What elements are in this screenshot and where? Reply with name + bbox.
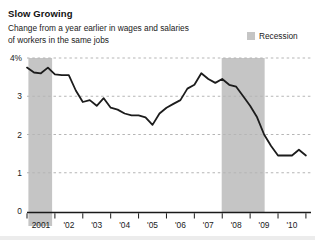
y-axis-label: 3 <box>17 91 22 101</box>
screen-bottom-edge <box>0 236 315 240</box>
y-axis-label: 4% <box>10 53 23 63</box>
recession-band <box>28 58 52 226</box>
x-axis-label: '03 <box>91 220 102 230</box>
x-axis-label: '04 <box>119 220 130 230</box>
x-axis-label: 2001 <box>32 220 51 230</box>
x-axis-label: '08 <box>231 220 242 230</box>
x-axis-label: '05 <box>147 220 158 230</box>
x-axis-label: '09 <box>259 220 270 230</box>
wage-growth-line-chart: 2001'02'03'04'05'06'07'08'09'104%3210 <box>0 0 315 240</box>
x-axis-label: '07 <box>203 220 214 230</box>
x-axis-label: '06 <box>175 220 186 230</box>
chart-panel: Slow Growing Change from a year earlier … <box>0 0 315 240</box>
x-axis-label: '10 <box>287 220 298 230</box>
x-axis-label: '02 <box>63 220 74 230</box>
y-axis-label: 0 <box>17 206 22 216</box>
recession-band <box>222 58 265 213</box>
y-axis-label: 1 <box>17 168 22 178</box>
y-axis-label: 2 <box>17 130 22 140</box>
